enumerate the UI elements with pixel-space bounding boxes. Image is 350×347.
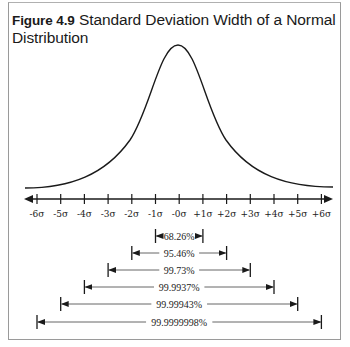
- axis-tick-label: +5σ: [288, 209, 307, 219]
- sigma-range-row: 99.9999998%: [37, 315, 321, 329]
- axis-tick-label: +6σ: [312, 209, 331, 219]
- x-axis: -6σ-5σ-4σ-3σ-2σ-1σ-0σ+1σ+2σ+3σ+4σ+5σ+6σ: [24, 194, 333, 219]
- axis-tick-label: -0σ: [172, 209, 187, 219]
- sigma-range-row: 68.26%: [156, 229, 203, 243]
- range-percentage-label: 99.9937%: [159, 282, 200, 293]
- axis-tick-label: -5σ: [53, 209, 68, 219]
- sigma-ranges: 68.26%95.46%99.73%99.9937%99.99943%99.99…: [37, 229, 321, 329]
- axis-tick-label: -6σ: [30, 209, 45, 219]
- range-percentage-label: 99.73%: [164, 265, 195, 276]
- sigma-range-row: 99.9937%: [84, 280, 274, 294]
- range-percentage-label: 99.9999998%: [151, 317, 207, 328]
- axis-tick-label: +2σ: [217, 209, 236, 219]
- range-percentage-label: 95.46%: [164, 248, 195, 259]
- axis-tick-label: -3σ: [101, 209, 116, 219]
- normal-distribution-chart: -6σ-5σ-4σ-3σ-2σ-1σ-0σ+1σ+2σ+3σ+4σ+5σ+6σ …: [0, 0, 350, 347]
- range-percentage-label: 68.26%: [164, 231, 195, 242]
- sigma-range-row: 99.73%: [108, 263, 250, 277]
- axis-arrow-left-icon: [24, 195, 33, 203]
- axis-tick-label: +1σ: [193, 209, 212, 219]
- axis-tick-label: +4σ: [264, 209, 283, 219]
- sigma-range-row: 95.46%: [132, 246, 227, 260]
- range-percentage-label: 99.99943%: [156, 299, 202, 310]
- axis-tick-label: -1σ: [148, 209, 163, 219]
- axis-tick-label: -4σ: [77, 209, 92, 219]
- axis-tick-label: +3σ: [241, 209, 260, 219]
- bell-curve: [25, 45, 333, 188]
- axis-tick-label: -2σ: [124, 209, 139, 219]
- sigma-range-row: 99.99943%: [61, 297, 298, 311]
- axis-arrow-right-icon: [324, 195, 333, 203]
